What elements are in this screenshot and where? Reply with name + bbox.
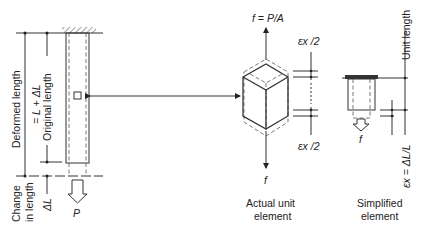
strain-bottom-label: εx /2 — [298, 140, 320, 152]
change-label-2: in length — [23, 182, 35, 222]
change-delta-label: ΔL — [41, 198, 53, 212]
simplified-caption-line2: element — [361, 210, 398, 222]
change-label-1: Change — [10, 185, 22, 222]
simplified-box — [348, 79, 375, 110]
actual-caption-line2: element — [254, 210, 291, 222]
bottom-stress-label: f — [264, 174, 268, 186]
unit-length-label: Unit length — [400, 10, 412, 60]
load-arrow-icon — [68, 180, 87, 203]
actual-unit-element: f = P/A f εx /2 εx /2 Actual unit elemen… — [243, 12, 320, 222]
bar-outline — [66, 33, 89, 163]
element-square — [74, 92, 81, 99]
bar-section: Deformed length = L + ΔL Original length… — [10, 27, 103, 222]
strain-diagram: Deformed length = L + ΔL Original length… — [0, 0, 423, 233]
load-label: P — [73, 207, 80, 219]
strain-top-label: εx /2 — [298, 35, 320, 47]
deformed-length-label: Deformed length — [10, 70, 22, 148]
actual-caption-line1: Actual unit — [246, 197, 295, 209]
simplified-element: Unit length εx = ΔL/L f Simplified eleme… — [342, 10, 412, 222]
simplified-strain-label: εx = ΔL/L — [400, 144, 412, 188]
cube-edges — [243, 77, 288, 129]
simplified-load-label: f — [359, 133, 363, 145]
simplified-caption-line1: Simplified — [357, 197, 403, 209]
fixed-support-hatch — [62, 27, 96, 33]
top-stress-label: f = P/A — [252, 12, 284, 24]
simplified-load-arrow-icon — [353, 119, 369, 131]
deformed-cube-inner — [250, 74, 282, 83]
original-length-label: Original length — [41, 73, 53, 141]
